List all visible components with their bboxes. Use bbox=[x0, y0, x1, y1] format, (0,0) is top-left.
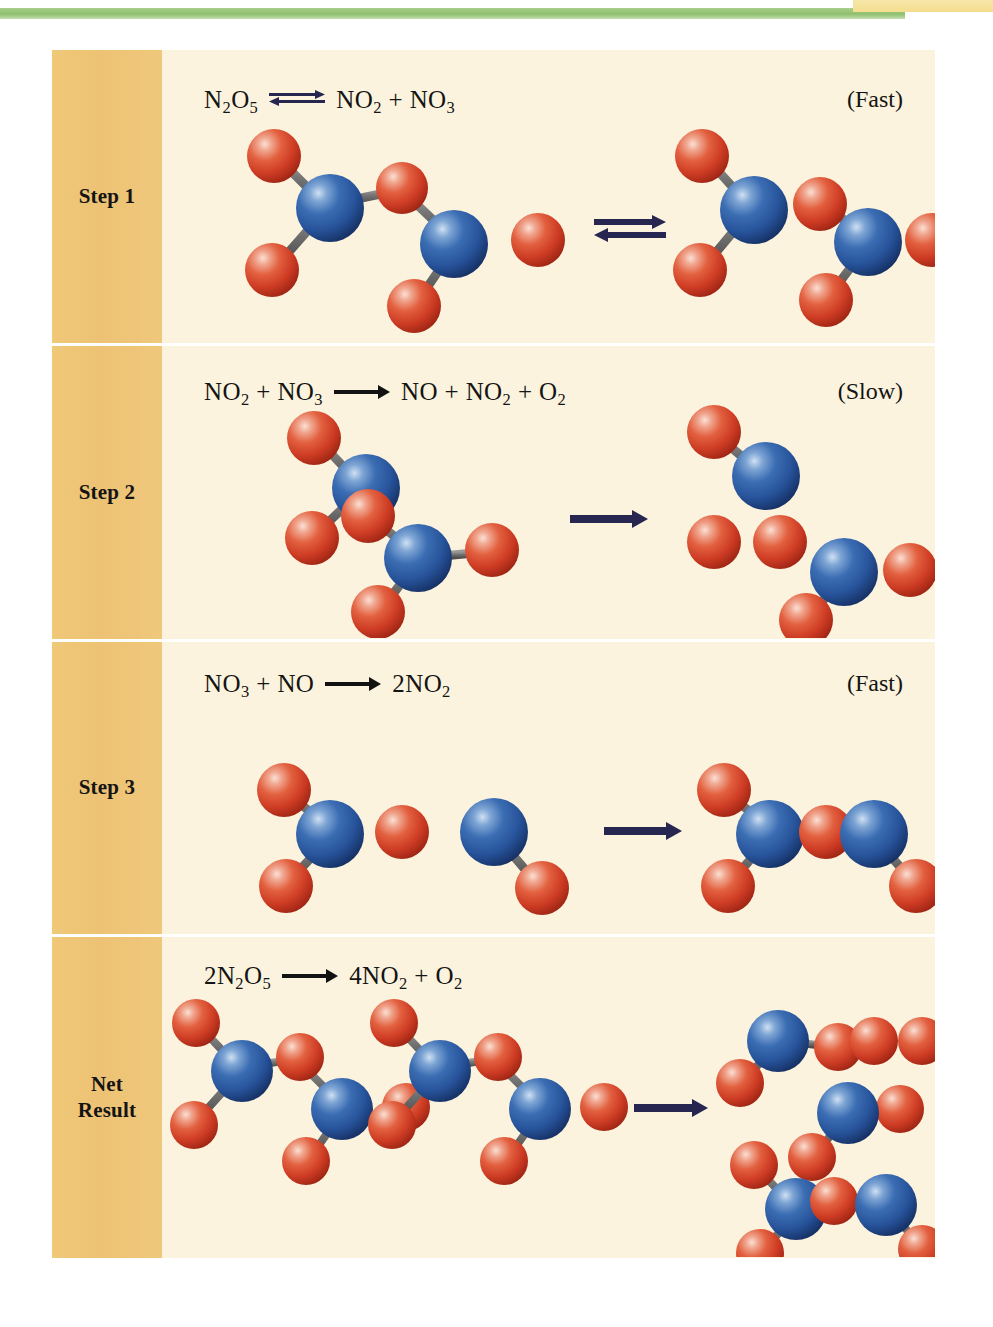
rate-label-2: (Slow) bbox=[838, 378, 903, 405]
step-label-1: Step 1 bbox=[79, 184, 136, 210]
molecule-no-product bbox=[687, 405, 800, 510]
molecule-no2-product bbox=[673, 129, 788, 297]
rate-label-1: (Fast) bbox=[847, 86, 903, 113]
step-label-net: Net Result bbox=[78, 1072, 136, 1123]
step-content-3: NO3 + NO2NO2 (Fast) bbox=[162, 642, 935, 934]
step-label-3: Step 3 bbox=[79, 775, 136, 801]
step-row-net: Net Result 2N2O54NO2 + O2 bbox=[52, 937, 935, 1258]
molecule-no3-product bbox=[793, 177, 935, 327]
step-label-cell-2: Step 2 bbox=[52, 346, 162, 639]
step-content-net: 2N2O54NO2 + O2 bbox=[162, 937, 935, 1258]
step3-molecules bbox=[162, 692, 935, 932]
reaction-arrow-step3 bbox=[604, 822, 682, 840]
step-row-1: Step 1 N2O5NO2 + NO3 (Fast) bbox=[52, 50, 935, 343]
reaction-arrow-step2 bbox=[570, 510, 648, 528]
net-molecules bbox=[162, 985, 935, 1257]
molecule-stage-step-2 bbox=[162, 402, 935, 638]
molecule-no2-net-2 bbox=[788, 1082, 924, 1181]
equilibrium-arrow-icon bbox=[269, 86, 325, 114]
reaction-arrow-net bbox=[634, 1099, 708, 1117]
step-row-3: Step 3 NO3 + NO2NO2 (Fast) bbox=[52, 642, 935, 934]
step-label-cell-net: Net Result bbox=[52, 937, 162, 1258]
molecule-no2-product-3b bbox=[799, 800, 935, 913]
molecule-stage-step-3 bbox=[162, 692, 935, 932]
molecule-o2-net bbox=[850, 1017, 935, 1065]
molecule-stage-net bbox=[162, 985, 935, 1257]
step-label-cell-3: Step 3 bbox=[52, 642, 162, 934]
equilibrium-arrow-step1 bbox=[594, 215, 666, 242]
molecule-n2o5-reactant bbox=[245, 129, 565, 333]
molecule-o2-product bbox=[687, 515, 807, 569]
step-label-cell-1: Step 1 bbox=[52, 50, 162, 343]
molecule-no3-reactant bbox=[341, 489, 519, 638]
molecule-stage-step-1 bbox=[162, 112, 935, 342]
step-content-1: N2O5NO2 + NO3 (Fast) bbox=[162, 50, 935, 343]
step2-molecules bbox=[162, 402, 935, 638]
step-row-2: Step 2 NO2 + NO3NO + NO2 + O2 (Slow) bbox=[52, 346, 935, 639]
molecule-no-reactant-3 bbox=[460, 798, 569, 915]
step1-molecules bbox=[162, 112, 935, 342]
molecule-no2-reactant bbox=[285, 411, 400, 565]
step-content-2: NO2 + NO3NO + NO2 + O2 (Slow) bbox=[162, 346, 935, 639]
reaction-mechanism-figure: Step 1 N2O5NO2 + NO3 (Fast) bbox=[52, 50, 935, 1258]
molecule-no3-reactant-3 bbox=[257, 763, 429, 913]
step-label-net-line1: Net bbox=[91, 1072, 123, 1096]
step-label-2: Step 2 bbox=[79, 480, 136, 506]
step-label-net-line2: Result bbox=[78, 1098, 136, 1122]
top-rule-green bbox=[0, 8, 905, 19]
top-rule-yellow bbox=[853, 0, 993, 12]
molecule-no2-net-4 bbox=[810, 1174, 935, 1257]
